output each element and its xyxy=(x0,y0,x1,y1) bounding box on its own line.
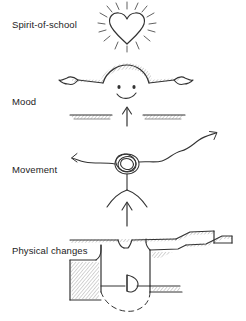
sketch-canvas xyxy=(0,0,246,321)
figure-with-wavy-arms-icon xyxy=(72,132,218,227)
architectural-floor-plan-icon xyxy=(70,231,232,311)
up-arrow-mood-icon xyxy=(123,107,132,126)
diagram-figure: Spirit-of-school Mood Movement Physical … xyxy=(0,0,246,321)
radiating-heart-icon xyxy=(98,2,156,52)
smiling-face-with-open-arms-icon xyxy=(59,63,193,126)
up-arrow-movement-icon xyxy=(122,202,132,226)
